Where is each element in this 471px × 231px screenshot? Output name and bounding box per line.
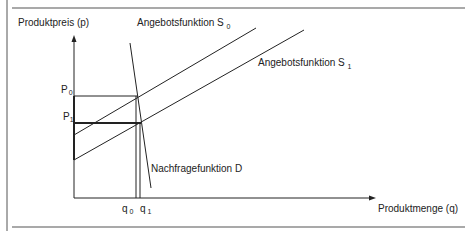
supply-curve-s0 — [74, 28, 256, 135]
p0-label: P0 — [61, 84, 73, 96]
supply0-label: Angebotsfunktion S 0 — [137, 17, 231, 30]
y-axis-arrow-icon — [72, 35, 77, 42]
supply-curve-s1 — [74, 30, 304, 160]
demand-label: Nachfragefunktion D — [151, 163, 242, 174]
supply-demand-diagram: Produktpreis (p) Angebotsfunktion S 0 An… — [0, 0, 471, 231]
x-axis-arrow-icon — [369, 196, 376, 201]
p1-label: P1 — [63, 111, 74, 123]
x-axis-label: Produktmenge (q) — [378, 203, 458, 214]
supply1-label: Angebotsfunktion S 1 — [258, 57, 352, 70]
q0-label: q0 — [122, 203, 134, 215]
y-axis-label: Produktpreis (p) — [18, 17, 89, 28]
q1-label: q1 — [140, 203, 152, 215]
